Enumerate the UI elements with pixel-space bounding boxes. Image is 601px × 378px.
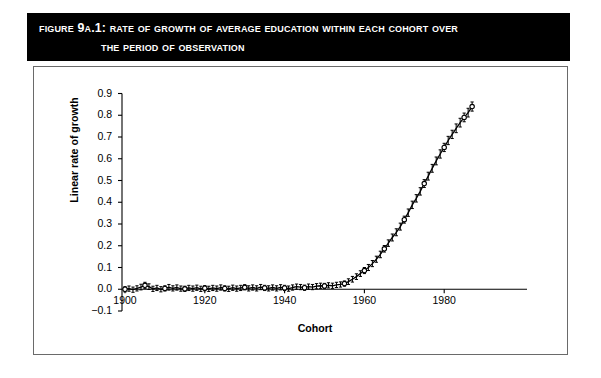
- figure-number-label: Figure 9A.1:: [39, 21, 106, 35]
- figure-title-text-2: the Period of Observation: [101, 40, 245, 54]
- figure-title-text-1: Rate of Growth of Average Education With…: [110, 21, 458, 35]
- figure-title-line-2: the Period of Observation: [39, 38, 560, 57]
- figure-title-line-1: Figure 9A.1: Rate of Growth of Average E…: [39, 19, 560, 38]
- figure-container: Figure 9A.1: Rate of Growth of Average E…: [0, 0, 601, 378]
- figure-title-banner: Figure 9A.1: Rate of Growth of Average E…: [27, 13, 570, 61]
- chart-panel: [33, 66, 568, 355]
